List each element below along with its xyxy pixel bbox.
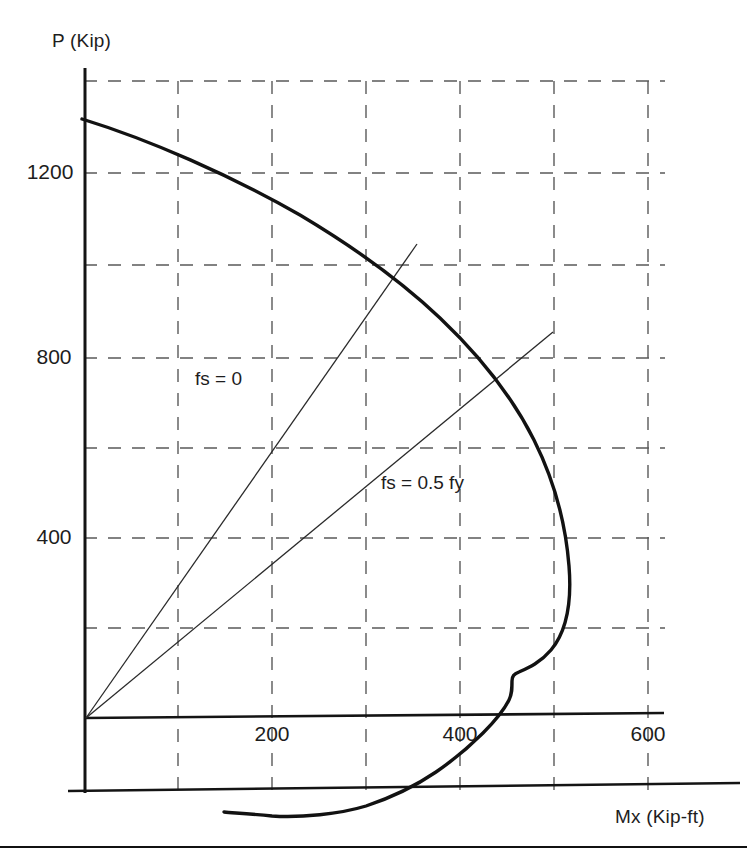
y-tick-label-800: 800 xyxy=(30,345,78,369)
interaction-curve xyxy=(82,119,570,817)
annotation-fs-half-fy: fs = 0.5 fy xyxy=(381,472,464,494)
radial-line-fs-half-fy xyxy=(86,332,553,718)
x-tick-label-600: 600 xyxy=(612,722,684,746)
x-tick-label-200: 200 xyxy=(236,722,308,746)
annotation-fs-0: fs = 0 xyxy=(195,368,242,390)
y-tick-label-1200: 1200 xyxy=(22,160,78,184)
x-axis-title: Mx (Kip-ft) xyxy=(615,806,705,828)
page-bottom-rule xyxy=(0,846,747,848)
radial-line-fs-0 xyxy=(86,244,417,718)
x-tick-label-400: 400 xyxy=(424,722,496,746)
x-axis-line-zero xyxy=(84,713,664,718)
grid-lines xyxy=(84,81,665,790)
y-tick-label-400: 400 xyxy=(30,525,78,549)
y-axis-title: P (Kip) xyxy=(52,30,111,52)
interaction-diagram-figure: P (Kip) Mx (Kip-ft) 1200 800 400 200 400… xyxy=(0,0,747,859)
